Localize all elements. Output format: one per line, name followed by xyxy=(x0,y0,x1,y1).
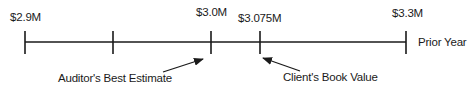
end-label-prior-year: Prior Year xyxy=(418,37,467,49)
annotation-client-book-value: Client's Book Value xyxy=(283,72,378,84)
arrow-client-icon xyxy=(263,58,300,71)
arrow-auditor-icon xyxy=(163,59,203,72)
tick-label-2-9m: $2.9M xyxy=(10,12,41,24)
tick-label-3-0m: $3.0M xyxy=(196,7,227,19)
tick-label-3-075m: $3.075M xyxy=(238,13,281,25)
tick-label-3-3m: $3.3M xyxy=(392,8,423,20)
annotation-auditor-best-estimate: Auditor's Best Estimate xyxy=(58,73,172,85)
